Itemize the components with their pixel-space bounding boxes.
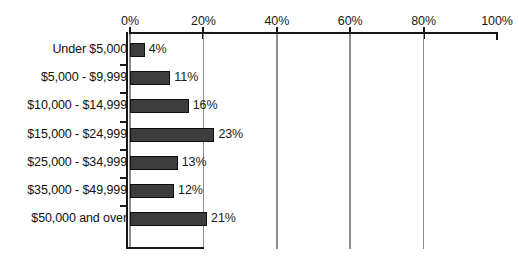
bar-value-label-5: 12% — [178, 183, 203, 197]
x-tick-label-100: 100% — [481, 14, 513, 28]
category-label-1: $5,000 - $9,999 — [41, 70, 127, 84]
gridline-80 — [423, 34, 425, 249]
y-tick-mark-1 — [120, 92, 127, 94]
x-tick-label-60: 60% — [338, 14, 363, 28]
bar-2 — [130, 99, 189, 113]
bar-value-label-4: 13% — [182, 155, 207, 169]
horizontal-bar-chart: 0%20%40%60%80%100%Under $5,0004%$5,000 -… — [0, 0, 519, 263]
x-tick-label-40: 40% — [264, 14, 289, 28]
bar-value-label-2: 16% — [193, 98, 218, 112]
x-tick-label-80: 80% — [411, 14, 436, 28]
bar-value-label-0: 4% — [149, 42, 167, 56]
bar-3 — [130, 128, 214, 142]
y-tick-mark-4 — [120, 177, 127, 179]
category-label-0: Under $5,000 — [52, 42, 127, 56]
bottom-axis-line — [126, 247, 204, 249]
bar-1 — [130, 71, 170, 85]
bar-6 — [130, 212, 207, 226]
y-tick-mark-3 — [120, 149, 127, 151]
x-axis-line — [129, 32, 498, 34]
category-label-5: $35,000 - $49,999 — [27, 183, 127, 197]
y-tick-mark-2 — [120, 121, 127, 123]
bar-5 — [130, 184, 174, 198]
bar-4 — [130, 156, 178, 170]
gridline-40 — [276, 34, 278, 249]
category-label-4: $25,000 - $34,999 — [27, 155, 127, 169]
category-label-2: $10,000 - $14,999 — [27, 98, 127, 112]
axis-end-bracket — [496, 32, 498, 40]
bar-value-label-1: 11% — [174, 70, 198, 84]
y-tick-mark-5 — [120, 205, 127, 207]
gridline-60 — [349, 34, 351, 249]
bar-value-label-6: 21% — [211, 211, 236, 225]
x-tick-label-20: 20% — [191, 14, 216, 28]
category-label-3: $15,000 - $24,999 — [27, 127, 127, 141]
x-tick-label-0: 0% — [121, 14, 139, 28]
bar-value-label-3: 23% — [218, 127, 243, 141]
category-label-6: $50,000 and over — [31, 211, 127, 225]
bar-0 — [130, 43, 145, 57]
y-tick-mark-0 — [120, 64, 127, 66]
